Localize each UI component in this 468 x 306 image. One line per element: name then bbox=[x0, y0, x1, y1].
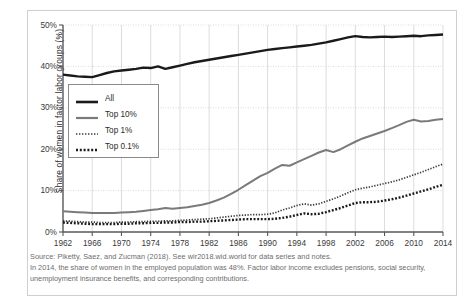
legend-item-all: All bbox=[69, 90, 158, 106]
legend-label-all: All bbox=[105, 94, 114, 103]
legend-label-top01: Top 0.1% bbox=[105, 142, 139, 151]
y-tick-label: 40% bbox=[23, 61, 57, 71]
series-line bbox=[63, 35, 443, 78]
x-tick-label: 2014 bbox=[426, 238, 460, 248]
y-tick-label: 0% bbox=[23, 227, 57, 237]
figure-notes: Source: Piketty, Saez, and Zucman (2018)… bbox=[30, 252, 454, 284]
legend-swatch-top1 bbox=[76, 125, 98, 135]
series-line bbox=[63, 164, 443, 222]
y-tick-label: 10% bbox=[23, 185, 57, 195]
y-tick-label: 50% bbox=[23, 20, 57, 30]
legend-item-top01: Top 0.1% bbox=[69, 138, 158, 154]
chart-legend: All Top 10% Top 1% Top 0.1% bbox=[68, 84, 159, 158]
body-note: In 2014, the share of women in the emplo… bbox=[30, 263, 450, 285]
legend-swatch-top10 bbox=[76, 109, 98, 119]
legend-label-top1: Top 1% bbox=[105, 126, 132, 135]
y-tick-label: 30% bbox=[23, 102, 57, 112]
legend-swatch-all bbox=[76, 93, 98, 103]
legend-swatch-top01 bbox=[76, 141, 98, 151]
source-note: Source: Piketty, Saez, and Zucman (2018)… bbox=[30, 252, 454, 263]
legend-label-top10: Top 10% bbox=[105, 110, 137, 119]
y-tick-label: 20% bbox=[23, 144, 57, 154]
figure-container: Share of women in factor labor groups (%… bbox=[0, 0, 468, 306]
legend-item-top1: Top 1% bbox=[69, 122, 158, 138]
legend-item-top10: Top 10% bbox=[69, 106, 158, 122]
